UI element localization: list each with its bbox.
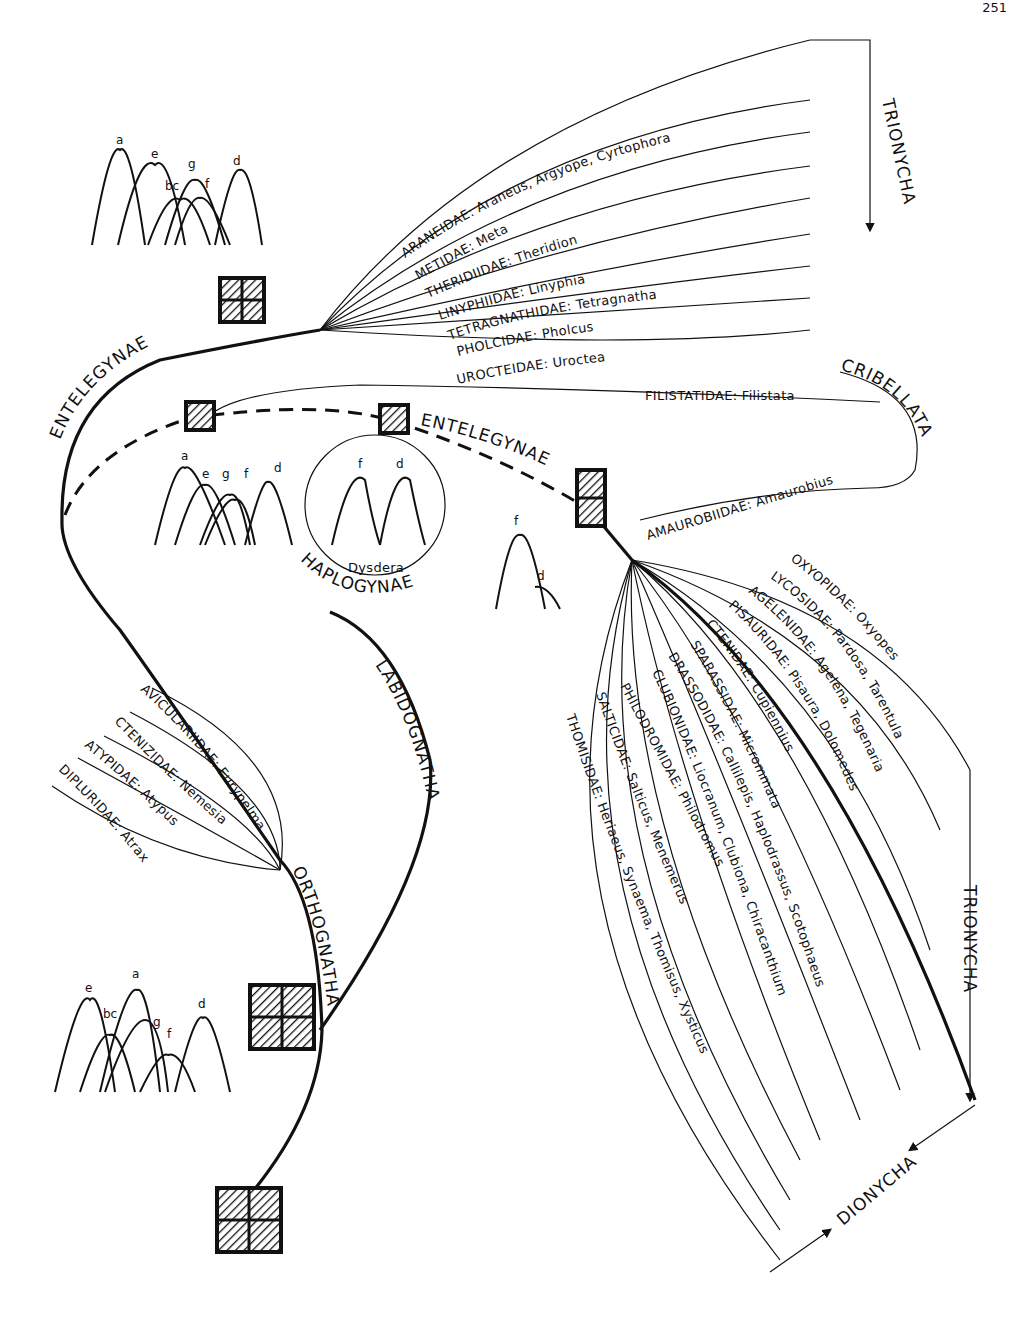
character-box-haplogynae: [380, 405, 408, 433]
character-box-orthognatha: [250, 985, 314, 1049]
svg-text:f: f: [205, 177, 210, 191]
svg-text:g: g: [188, 157, 196, 171]
svg-text:e: e: [151, 147, 158, 161]
character-box-upper: [220, 278, 264, 322]
svg-text:bc: bc: [165, 179, 179, 193]
character-box-entelegynae: [577, 470, 605, 526]
svg-text:d: d: [198, 997, 206, 1011]
label-dionycha: DIONYCHA: [833, 1151, 921, 1229]
label-trionycha-right: TRIONYCHA: [960, 884, 980, 993]
upper-family-labels: ARANEIDAE: Araneus, Argyope, Cyrtophora …: [398, 130, 672, 387]
svg-text:g: g: [222, 467, 230, 481]
label-trionycha-top: TRIONYCHA: [878, 96, 920, 207]
svg-text:a: a: [181, 449, 188, 463]
label-entelegynae-mid: ENTELEGYNAE: [419, 409, 553, 469]
orthognath-family-labels: AVICULARIIDAE: Eurypelma CTENIZIDAE: Nem…: [56, 681, 269, 865]
svg-text:f: f: [167, 1027, 172, 1041]
character-box-left: [186, 402, 214, 430]
phylogeny-diagram: a e bc g f d a e g f d f d Dysdera f d: [0, 0, 1031, 1332]
family-amaurobiidae: AMAUROBIIDAE: Amaurobius: [644, 472, 835, 543]
upper-fan: [320, 40, 810, 340]
peak-chart-dysdera: [332, 478, 425, 545]
dashed-lineage: [65, 409, 590, 515]
label-entelegynae-upper: ENTELEGYNAE: [45, 331, 152, 441]
svg-text:d: d: [274, 461, 282, 475]
family-filistatidae: FILISTATIDAE: Filistata: [645, 388, 795, 403]
svg-text:a: a: [116, 133, 123, 147]
character-box-root: [217, 1188, 281, 1252]
svg-text:d: d: [233, 154, 241, 168]
peak-chart-amaurobius: [496, 535, 560, 609]
svg-text:a: a: [132, 967, 139, 981]
amaurobius-peak-f: f: [514, 514, 519, 528]
svg-text:g: g: [153, 1015, 161, 1029]
dysdera-peak-d: d: [396, 457, 404, 471]
amaurobius-peak-d: d: [537, 569, 545, 583]
labidognatha-branch: [320, 612, 431, 1030]
label-labidognatha: LABIDOGNATHA: [372, 656, 444, 802]
svg-text:f: f: [244, 467, 249, 481]
svg-text:e: e: [202, 467, 209, 481]
dysdera-circle: [305, 435, 445, 575]
family-araneidae: ARANEIDAE: Araneus, Argyope, Cyrtophora: [398, 130, 672, 261]
dysdera-peak-f: f: [358, 457, 363, 471]
family-urocteidae: UROCTEIDAE: Uroctea: [455, 349, 606, 387]
trionycha-top-bracket: [810, 40, 870, 230]
label-cribellata: CRIBELLATA: [839, 355, 937, 440]
svg-text:e: e: [85, 981, 92, 995]
dysdera-caption: Dysdera: [348, 560, 404, 575]
svg-text:bc: bc: [103, 1007, 117, 1021]
